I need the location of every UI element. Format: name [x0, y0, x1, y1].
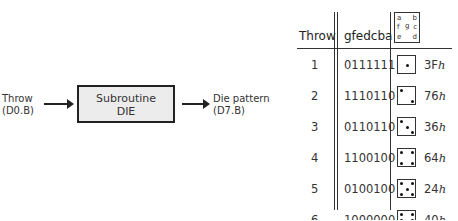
throw-value: 5 [311, 182, 318, 196]
input-arrow-icon [44, 103, 72, 105]
pip-icon [400, 162, 403, 165]
pip-icon [400, 213, 403, 216]
die-face-icon [397, 148, 416, 167]
hex-value: 76h [424, 89, 446, 103]
pip-icon [400, 182, 403, 185]
throw-value: 2 [311, 89, 318, 103]
hex-value: 3Fh [424, 58, 445, 72]
pip-icon [411, 151, 414, 154]
header-throw: Throw [299, 29, 336, 43]
pip-icon [400, 193, 403, 196]
bits-value: 1000000 [344, 213, 395, 220]
bits-value: 1110110 [344, 89, 395, 103]
die-face-icon [397, 179, 416, 198]
pip-icon [411, 219, 414, 221]
input-label: Throw (D0.B) [2, 93, 34, 117]
pip-icon [406, 64, 409, 67]
output-arrow-icon [182, 103, 208, 105]
pip-icon [400, 89, 403, 92]
pip-icon [411, 100, 414, 103]
header-bits: gfedcba [344, 29, 392, 43]
hex-value: 24h [424, 182, 446, 196]
pip-icon [411, 213, 414, 216]
bits-value: 1100100 [344, 151, 395, 165]
bits-value: 0110110 [344, 120, 395, 134]
segment-key-icon: a b f g c e d [394, 12, 420, 43]
throw-value: 3 [311, 120, 318, 134]
divider-double-b [337, 12, 338, 210]
divider-single [390, 12, 391, 210]
subroutine-box: Subroutine DIE [77, 85, 175, 123]
die-face-icon [397, 86, 416, 105]
pip-icon [411, 182, 414, 185]
hex-value: 64h [424, 151, 446, 165]
die-face-icon [397, 210, 416, 220]
die-face-icon [397, 117, 416, 136]
pip-icon [411, 162, 414, 165]
bits-value: 0100100 [344, 182, 395, 196]
pip-icon [400, 120, 403, 123]
hex-value: 40h [424, 213, 446, 220]
pip-icon [406, 126, 409, 129]
throw-value: 6 [311, 213, 318, 220]
throw-value: 1 [311, 58, 318, 72]
hex-value: 36h [424, 120, 446, 134]
pip-icon [400, 219, 403, 221]
throw-value: 4 [311, 151, 318, 165]
pip-icon [400, 151, 403, 154]
pip-icon [411, 131, 414, 134]
bits-value: 0111111 [344, 58, 395, 72]
output-label: Die pattern (D7.B) [213, 93, 270, 117]
header-rule [297, 48, 452, 49]
divider-double-a [334, 12, 335, 210]
pip-icon [411, 193, 414, 196]
die-face-icon [397, 55, 416, 74]
pip-icon [406, 188, 409, 191]
